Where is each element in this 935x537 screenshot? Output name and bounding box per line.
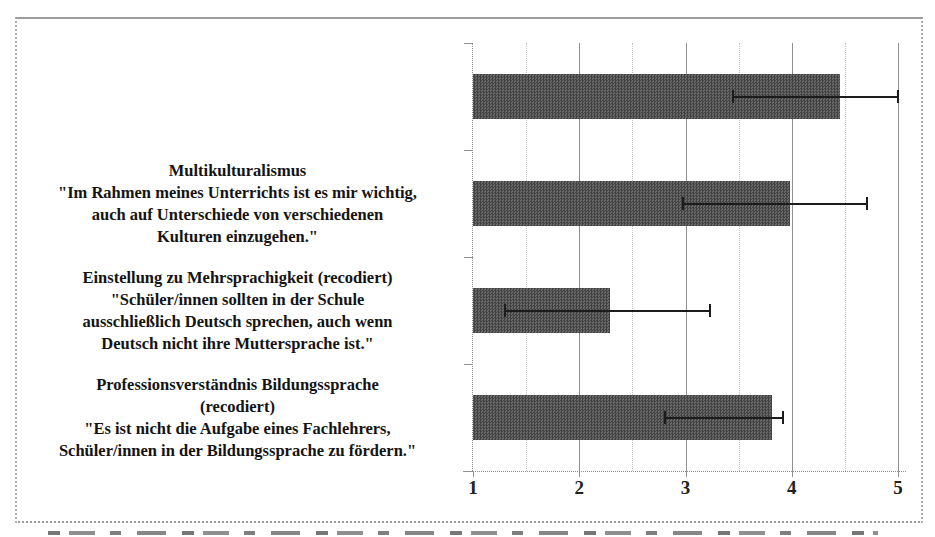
error-bar-cap (782, 411, 784, 424)
error-bar-cap (504, 304, 506, 317)
category-label: Professionsverständnis Bildungssprache (… (10, 364, 465, 471)
gridline-major (898, 43, 899, 471)
error-bar-cap (732, 90, 734, 103)
error-bar (733, 96, 898, 98)
x-tick-label: 1 (456, 477, 490, 499)
error-bar (665, 417, 783, 419)
category-label: Einstellung zu Mehrsprachigkeit (recodie… (10, 257, 465, 364)
error-bar-cap (897, 90, 899, 103)
error-bar-cap (664, 411, 666, 424)
error-bar-cap (866, 197, 868, 210)
error-bar (505, 310, 710, 312)
x-tick-label: 4 (775, 477, 809, 499)
y-axis-tick (464, 364, 473, 365)
category-label: Multikulturalismus "Im Rahmen meines Unt… (10, 150, 465, 257)
cropped-caption-fragment (48, 531, 878, 535)
category-labels: Multikulturalismus "Im Rahmen meines Unt… (10, 43, 465, 471)
error-bar-cap (682, 197, 684, 210)
x-tick-label: 5 (881, 477, 915, 499)
category-label (10, 43, 465, 150)
y-axis-tick (464, 150, 473, 151)
plot-area (473, 43, 898, 471)
figure: Multikulturalismus "Im Rahmen meines Unt… (0, 0, 935, 537)
x-tick-label: 3 (669, 477, 703, 499)
x-axis-line (463, 471, 906, 472)
x-tick-label: 2 (562, 477, 596, 499)
gridline-minor (845, 43, 846, 471)
error-bar (683, 203, 867, 205)
y-axis-tick (464, 43, 473, 44)
error-bar-cap (709, 304, 711, 317)
y-axis-tick (464, 257, 473, 258)
